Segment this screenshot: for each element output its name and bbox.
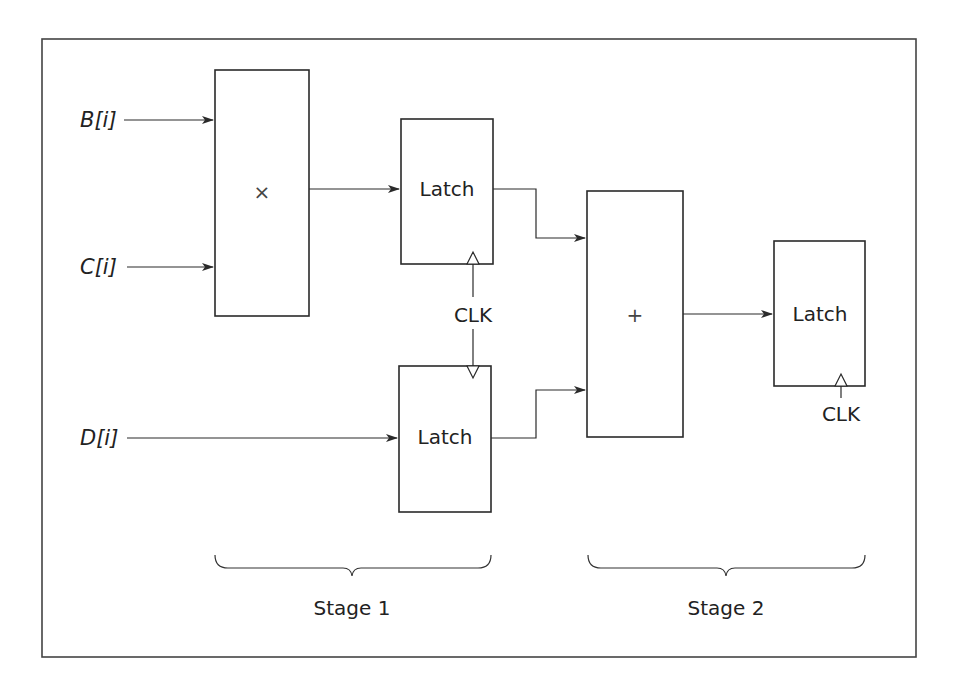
latch-3-label: Latch — [793, 302, 848, 326]
stage-1-label: Stage 1 — [314, 596, 391, 620]
latch-1-label: Latch — [420, 177, 475, 201]
pipeline-diagram: B[i] C[i] D[i] × Latch Latch CLK + Latch… — [0, 0, 957, 690]
add-symbol: + — [627, 303, 644, 327]
input-d-label: D[i] — [80, 426, 118, 450]
stage-2-brace — [588, 555, 865, 576]
stage-2-label: Stage 2 — [688, 596, 765, 620]
latch-2-label: Latch — [418, 425, 473, 449]
multiply-symbol: × — [254, 180, 271, 204]
latch-2-output-wire — [491, 390, 585, 438]
input-b-label: B[i] — [80, 108, 117, 132]
input-c-label: C[i] — [80, 255, 117, 279]
stage-1-brace — [215, 555, 491, 576]
latch-1-output-wire — [493, 189, 585, 238]
shared-clk-label: CLK — [454, 303, 493, 327]
stage-2-clk-label: CLK — [822, 402, 861, 426]
